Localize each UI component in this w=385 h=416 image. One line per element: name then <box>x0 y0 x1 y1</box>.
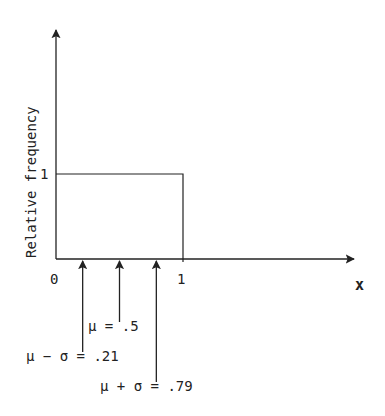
mu-minus-sigma-label: μ − σ = .21 <box>26 348 119 364</box>
density-rectangle <box>56 174 183 262</box>
mu-plus-sigma-label: μ + σ = .79 <box>100 378 193 394</box>
uniform-distribution-diagram: Relative frequency x 1 0 1 μ − σ = .21μ … <box>0 0 385 416</box>
y-axis-label: Relative frequency <box>23 106 39 258</box>
x-tick-label-1: 1 <box>177 271 185 287</box>
mu-label: μ = .5 <box>88 318 139 334</box>
x-tick-label-0: 0 <box>50 271 58 287</box>
x-axis-label: x <box>355 276 364 294</box>
y-tick-label-1: 1 <box>40 166 48 182</box>
